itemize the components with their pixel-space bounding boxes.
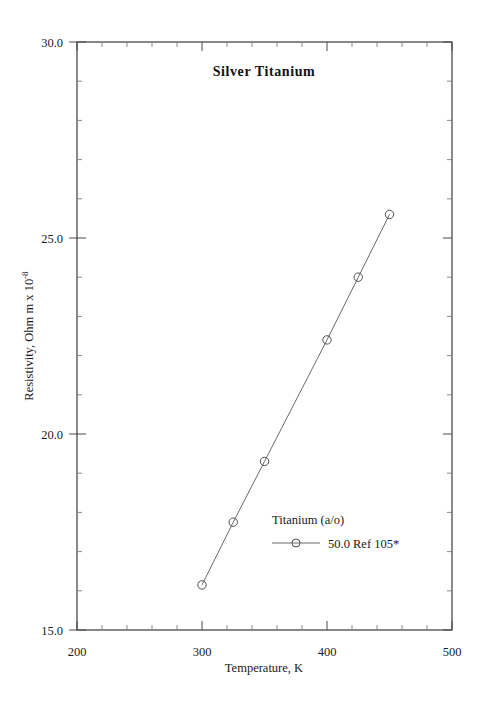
legend: Titanium (a/o) 50.0 Ref 105* [272,513,399,551]
x-tick-label: 300 [193,645,212,659]
y-axis-title-exponent: -8 [20,271,30,279]
figure-canvas: 20030040050015.020.025.030.0 Silver Tita… [0,0,488,702]
y-tick-label: 25.0 [41,232,63,246]
x-tick-label: 500 [443,645,462,659]
ticks-layer: 20030040050015.020.025.030.0 [41,36,461,660]
x-tick-label: 400 [318,645,337,659]
y-axis-title-main: Resistivity, Ohm m x 10 [22,279,36,401]
x-axis-title: Temperature, K [225,661,303,675]
chart-title: Silver Titanium [213,64,316,79]
y-tick-label: 15.0 [41,624,63,638]
data-series-layer [198,210,394,589]
x-tick-label: 200 [68,645,87,659]
legend-title: Titanium (a/o) [272,513,344,527]
y-tick-label: 30.0 [41,36,63,50]
series-line [202,214,390,584]
y-tick-label: 20.0 [41,428,63,442]
y-axis-title: Resistivity, Ohm m x 10-8 [20,271,36,401]
y-axis-title-group: Resistivity, Ohm m x 10-8 [20,271,36,401]
legend-entry-label: 50.0 Ref 105* [328,537,399,551]
chart-svg: 20030040050015.020.025.030.0 Silver Tita… [0,0,488,702]
